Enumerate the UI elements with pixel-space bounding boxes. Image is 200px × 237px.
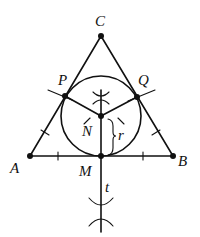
radius-brace bbox=[108, 119, 116, 155]
label-q: Q bbox=[138, 72, 149, 88]
diagram-canvas: C P Q N r A B M t bbox=[0, 0, 200, 237]
label-m: M bbox=[78, 163, 93, 179]
triangle-incircle-diagram: C P Q N r A B M t bbox=[0, 0, 200, 237]
label-r: r bbox=[118, 127, 124, 143]
label-c: C bbox=[95, 13, 106, 29]
label-a: A bbox=[9, 160, 20, 176]
label-n: N bbox=[81, 123, 93, 139]
label-b: B bbox=[178, 153, 187, 169]
label-t: t bbox=[105, 179, 110, 195]
label-p: P bbox=[57, 72, 67, 88]
